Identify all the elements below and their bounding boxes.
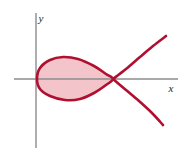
figure-container: y x bbox=[0, 0, 192, 157]
curve-figure: y x bbox=[0, 0, 192, 157]
lower-right-branch bbox=[113, 79, 163, 125]
upper-right-branch bbox=[113, 36, 166, 79]
y-axis-label: y bbox=[38, 12, 44, 24]
x-axis-label: x bbox=[168, 82, 174, 94]
